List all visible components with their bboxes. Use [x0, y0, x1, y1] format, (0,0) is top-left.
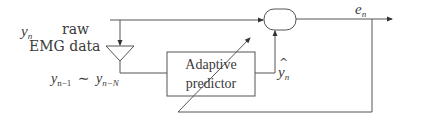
predictor-label: Adaptive predictor	[167, 52, 255, 96]
delayed-input-line	[120, 61, 167, 73]
error-label: en	[355, 1, 366, 19]
delay-b-subscript: n−N	[102, 78, 119, 88]
tilde-symbol: ∼	[75, 71, 93, 86]
prediction-line	[255, 31, 275, 73]
summing-node	[264, 9, 296, 30]
input-description-line1: raw	[62, 21, 89, 37]
predictor-label-line1: Adaptive	[185, 55, 236, 74]
adaptive-prediction-diagram: yn raw EMG data yn−1 ∼ yn−N Adaptive pre…	[0, 0, 430, 121]
delay-line-label: yn−1 ∼ yn−N	[51, 70, 119, 88]
input-description-line2: EMG data	[29, 38, 100, 54]
predictor-label-line2: predictor	[186, 74, 237, 93]
delay-a-subscript: n−1	[57, 78, 71, 88]
input-symbol: y	[21, 23, 28, 39]
error-subscript: n	[362, 9, 367, 19]
prediction-subscript: n	[285, 72, 290, 82]
delay-triangle-icon	[106, 46, 134, 61]
prediction-label: yn	[278, 64, 289, 82]
prediction-symbol: y	[278, 64, 285, 80]
error-symbol: e	[355, 1, 362, 17]
